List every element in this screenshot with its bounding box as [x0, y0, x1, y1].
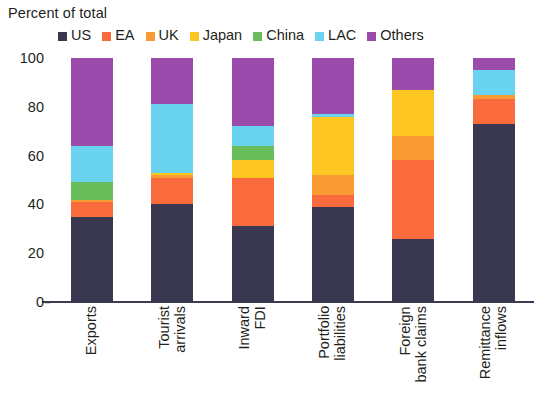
x-axis-labels: ExportsTourist arrivalsInward FDIPortfol…	[52, 306, 534, 418]
bar-segment-us[interactable]	[473, 124, 515, 302]
bar-segment-others[interactable]	[312, 58, 354, 114]
legend-item-japan[interactable]: Japan	[190, 28, 243, 43]
bar-segment-others[interactable]	[473, 58, 515, 70]
stacked-bar-chart: Percent of total USEAUKJapanChinaLACOthe…	[0, 0, 538, 420]
legend-item-label: UK	[159, 28, 179, 43]
bar-series-container	[52, 58, 534, 302]
bar-segment-lac[interactable]	[232, 126, 274, 146]
legend-swatch-icon	[190, 32, 199, 41]
legend-item-label: EA	[115, 28, 134, 43]
bar-segment-us[interactable]	[71, 217, 113, 302]
bar-segment-us[interactable]	[232, 226, 274, 302]
bar-segment-china[interactable]	[232, 146, 274, 161]
bar-group[interactable]	[312, 58, 354, 302]
x-tick-label: Tourist arrivals	[157, 306, 188, 353]
bar-segment-us[interactable]	[312, 207, 354, 302]
bar-stack	[71, 58, 113, 302]
bar-segment-us[interactable]	[151, 204, 193, 302]
chart-title: Percent of total	[8, 5, 107, 21]
y-tick-label: 20	[10, 245, 44, 261]
x-label-cell: Portfolio liabilities	[312, 306, 354, 418]
bar-segment-ea[interactable]	[312, 195, 354, 207]
legend-swatch-icon	[102, 32, 111, 41]
x-tick-label: Inward FDI	[237, 306, 268, 350]
bar-segment-ea[interactable]	[151, 178, 193, 205]
bar-group[interactable]	[392, 58, 434, 302]
bar-segment-uk[interactable]	[312, 175, 354, 195]
bar-segment-others[interactable]	[71, 58, 113, 146]
x-tick-label: Exports	[84, 306, 100, 355]
bar-stack	[232, 58, 274, 302]
legend-item-ea[interactable]: EA	[102, 28, 134, 43]
bar-segment-ea[interactable]	[232, 178, 274, 227]
y-tick-label: 0	[10, 294, 44, 310]
bar-segment-lac[interactable]	[71, 146, 113, 183]
bar-segment-japan[interactable]	[312, 117, 354, 176]
legend-swatch-icon	[253, 32, 262, 41]
legend-item-uk[interactable]: UK	[146, 28, 179, 43]
bar-segment-ea[interactable]	[71, 202, 113, 217]
legend-item-label: US	[71, 28, 91, 43]
legend-swatch-icon	[146, 32, 155, 41]
y-tick-label: 80	[10, 99, 44, 115]
x-label-cell: Foreign bank claims	[392, 306, 434, 418]
bar-segment-others[interactable]	[151, 58, 193, 104]
bar-segment-ea[interactable]	[473, 99, 515, 123]
legend-item-others[interactable]: Others	[367, 28, 424, 43]
bar-stack	[312, 58, 354, 302]
x-label-cell: Tourist arrivals	[151, 306, 193, 418]
legend-item-us[interactable]: US	[58, 28, 91, 43]
legend-swatch-icon	[58, 32, 67, 41]
legend-item-label: LAC	[328, 28, 356, 43]
bar-segment-others[interactable]	[232, 58, 274, 126]
y-tick-mark	[45, 301, 50, 303]
x-tick-label: Remittance inflows	[478, 306, 509, 379]
bar-segment-lac[interactable]	[473, 70, 515, 94]
legend-item-label: China	[266, 28, 304, 43]
bar-group[interactable]	[232, 58, 274, 302]
legend-swatch-icon	[367, 32, 376, 41]
bar-segment-china[interactable]	[71, 182, 113, 199]
bar-stack	[151, 58, 193, 302]
x-label-cell: Remittance inflows	[473, 306, 515, 418]
x-label-cell: Inward FDI	[232, 306, 274, 418]
x-label-cell: Exports	[71, 306, 113, 418]
bar-group[interactable]	[151, 58, 193, 302]
bar-segment-lac[interactable]	[151, 104, 193, 172]
bar-segment-us[interactable]	[392, 239, 434, 302]
bar-stack	[473, 58, 515, 302]
x-tick-label: Foreign bank claims	[398, 306, 429, 383]
legend-item-label: Japan	[203, 28, 243, 43]
bar-stack	[392, 58, 434, 302]
bar-segment-ea[interactable]	[392, 160, 434, 238]
plot-area: 100806040200	[52, 58, 534, 302]
bar-segment-japan[interactable]	[232, 160, 274, 177]
bar-segment-japan[interactable]	[392, 90, 434, 136]
legend-item-lac[interactable]: LAC	[315, 28, 356, 43]
y-tick-label: 40	[10, 196, 44, 212]
chart-legend: USEAUKJapanChinaLACOthers	[58, 28, 534, 43]
bar-group[interactable]	[473, 58, 515, 302]
legend-item-label: Others	[380, 28, 424, 43]
bar-segment-uk[interactable]	[392, 136, 434, 160]
y-tick-label: 60	[10, 148, 44, 164]
x-tick-label: Portfolio liabilities	[317, 306, 348, 361]
bar-segment-others[interactable]	[392, 58, 434, 90]
bar-group[interactable]	[71, 58, 113, 302]
legend-swatch-icon	[315, 32, 324, 41]
legend-item-china[interactable]: China	[253, 28, 304, 43]
y-tick-label: 100	[10, 50, 44, 66]
